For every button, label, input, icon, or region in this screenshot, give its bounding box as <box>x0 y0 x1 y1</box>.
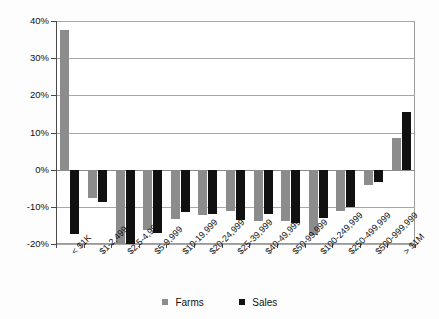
y-axis-tick: 0% <box>0 165 49 175</box>
y-axis-tick-label: 20% <box>3 90 49 100</box>
bar-group <box>139 21 167 244</box>
x-tick-mark <box>56 244 57 248</box>
legend-label-farms: Farms <box>175 297 203 308</box>
bar-farms[interactable] <box>198 170 207 216</box>
bar-farms[interactable] <box>226 170 235 211</box>
bar-farms[interactable] <box>254 170 263 221</box>
bar-farms[interactable] <box>336 170 345 211</box>
y-axis-tick-label: -20% <box>3 239 49 249</box>
legend-swatch-sales-icon <box>239 299 245 305</box>
y-axis-tick: 40% <box>0 16 49 26</box>
bar-sales[interactable] <box>236 170 245 220</box>
bars-layer <box>56 21 415 244</box>
y-axis-tick: 10% <box>0 128 49 138</box>
y-axis-tick: 20% <box>0 90 49 100</box>
bar-group <box>222 21 250 244</box>
bar-group <box>84 21 112 244</box>
bar-sales[interactable] <box>181 170 190 213</box>
bar-farms[interactable] <box>392 138 401 170</box>
bar-sales[interactable] <box>98 170 107 203</box>
y-axis-tick-label: 30% <box>3 53 49 63</box>
bar-sales[interactable] <box>291 170 300 223</box>
legend-item-farms[interactable]: Farms <box>162 297 204 309</box>
bar-farms[interactable] <box>88 170 97 198</box>
bar-group <box>249 21 277 244</box>
bar-farms[interactable] <box>171 170 180 219</box>
bar-sales[interactable] <box>402 112 411 170</box>
y-axis-tick-label: 0% <box>3 165 49 175</box>
y-axis-tick-label: 10% <box>3 128 49 138</box>
bar-chart: 40%30%20%10%0%-10%-20% < $1K$1-2,499$2.5… <box>0 0 439 319</box>
legend-label-sales: Sales <box>252 297 277 308</box>
legend-item-sales[interactable]: Sales <box>239 297 278 309</box>
bar-group <box>111 21 139 244</box>
legend-swatch-farms-icon <box>162 299 168 305</box>
y-axis-tick-label: -10% <box>3 202 49 212</box>
bar-sales[interactable] <box>319 170 328 218</box>
bar-group <box>194 21 222 244</box>
bar-group <box>166 21 194 244</box>
y-axis-tick-label: 40% <box>3 16 49 26</box>
bar-group <box>277 21 305 244</box>
bar-sales[interactable] <box>70 170 79 234</box>
bar-sales[interactable] <box>346 170 355 207</box>
y-axis-tick: 30% <box>0 53 49 63</box>
bar-farms[interactable] <box>281 170 290 221</box>
chart-legend: Farms Sales <box>0 297 439 309</box>
y-axis-tick: -10% <box>0 202 49 212</box>
bar-farms[interactable] <box>364 170 373 185</box>
bar-sales[interactable] <box>208 170 217 214</box>
bar-group <box>305 21 333 244</box>
bar-sales[interactable] <box>374 170 383 182</box>
y-axis-tick: -20% <box>0 239 49 249</box>
bar-group <box>56 21 84 244</box>
bar-farms[interactable] <box>143 170 152 231</box>
bar-sales[interactable] <box>264 170 273 214</box>
bar-farms[interactable] <box>60 30 69 169</box>
